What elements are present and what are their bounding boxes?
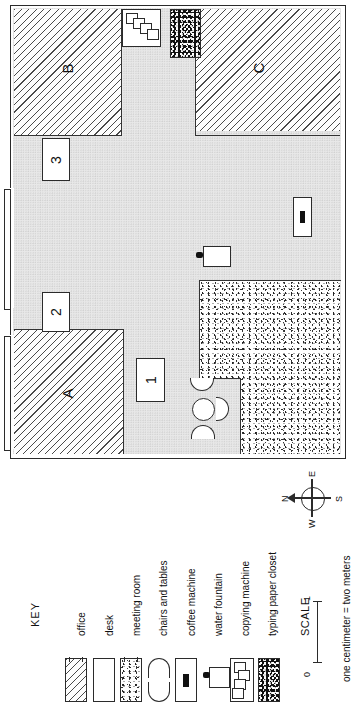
scale-caption: one centimeter = two meters (341, 556, 352, 682)
key-label-copying-machine: copying machine (240, 561, 251, 636)
desk-3-label: 3 (48, 156, 64, 164)
floor-plan: C B A 3 2 1 (0, 0, 356, 470)
desk-2[interactable]: 2 (42, 292, 70, 332)
copying-machine[interactable] (122, 9, 161, 47)
coffee-machine[interactable] (293, 197, 312, 237)
key-label-meeting-room: meeting room (131, 575, 142, 636)
water-fountain-icon (203, 665, 229, 691)
scale-bar-cap-bottom (313, 662, 322, 663)
door-leaf-2[interactable] (4, 189, 11, 310)
scale-max-label: 1 (302, 591, 312, 601)
copying-machine-icon (230, 658, 254, 702)
typing-paper-closet[interactable] (170, 9, 201, 58)
meeting-room (241, 281, 340, 454)
plain-rect-icon (93, 658, 115, 702)
speckled-rect-icon (120, 658, 142, 702)
desk-1-label: 1 (142, 376, 158, 384)
key-legend: KEY office desk meeting room chairs and … (0, 470, 356, 707)
desk-1[interactable]: 1 (136, 358, 165, 402)
scale-bar-cap-top (313, 601, 322, 602)
partition-wall-C-bottom (196, 135, 340, 136)
key-label-office: office (76, 612, 87, 636)
water-fountain-spout (196, 252, 203, 258)
room-C-label: C (250, 54, 267, 74)
semicircles-icon (148, 658, 170, 702)
scale-min-label: 0 (302, 667, 312, 677)
room-B-label: B (59, 54, 76, 74)
key-label-chairs-and-tables: chairs and tables (158, 560, 169, 636)
door-leaf-1[interactable] (4, 336, 11, 451)
meeting-room-ext (200, 281, 242, 378)
coffee-machine-icon (175, 658, 197, 702)
round-table (192, 398, 215, 421)
partition-wall-A-right (123, 330, 124, 454)
key-title: KEY (29, 593, 41, 627)
key-label-desk: desk (104, 615, 115, 636)
key-label-water-fountain: water fountain (213, 573, 224, 636)
coffee-machine-slot (300, 211, 305, 223)
water-fountain[interactable] (203, 246, 231, 267)
desk-3[interactable]: 3 (42, 138, 70, 181)
dark-speckled-rect-icon (258, 658, 280, 702)
meeting-room-wall-left (199, 281, 200, 379)
key-label-coffee-machine: coffee machine (186, 568, 197, 636)
hatched-rect-icon (65, 658, 87, 702)
scale-bar (317, 601, 318, 663)
partition-wall-B-bottom (14, 135, 122, 136)
meeting-room-wall-inner (240, 378, 241, 454)
meeting-room-wall-top (199, 280, 341, 281)
room-C-office (196, 9, 340, 131)
room-A-label: A (59, 379, 76, 399)
desk-2-label: 2 (48, 308, 64, 316)
key-label-typing-paper-closet: typing paper closet (267, 552, 278, 636)
copier-square (147, 29, 159, 40)
